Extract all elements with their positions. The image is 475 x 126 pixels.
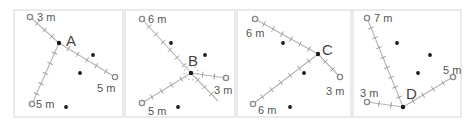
distance-label: 3 m	[214, 84, 232, 96]
anchor-ring-icon	[112, 74, 117, 79]
candidate-point-dot	[288, 105, 292, 109]
candidate-point-dot	[428, 53, 432, 57]
point-label: B	[188, 52, 198, 69]
center-point-dot	[401, 105, 405, 109]
point-label: D	[406, 85, 417, 102]
anchor-ring-icon	[337, 74, 342, 79]
distance-label: 3 m	[360, 87, 378, 99]
anchor-ring-icon	[252, 16, 257, 21]
point-label: C	[322, 41, 333, 58]
distance-label: 5 m	[148, 105, 166, 117]
point-label: A	[66, 32, 76, 49]
candidate-point-dot	[91, 53, 95, 57]
candidate-point-dot	[281, 41, 285, 45]
anchor-ring-icon	[223, 75, 228, 80]
candidate-point-dot	[169, 41, 173, 45]
distance-label: 6 m	[258, 104, 276, 116]
candidate-point-dot	[302, 71, 306, 75]
center-point-dot	[316, 52, 320, 56]
anchor-ring-icon	[364, 15, 369, 20]
candidate-point-dot	[78, 71, 82, 75]
distance-label: 6 m	[148, 13, 166, 25]
distance-label: 5 m	[97, 82, 115, 94]
candidate-point-dot	[64, 105, 68, 109]
anchor-ring-icon	[250, 101, 255, 106]
anchor-ring-icon	[139, 16, 144, 21]
anchor-ring-icon	[139, 100, 144, 105]
distance-label: 5 m	[443, 64, 461, 76]
anchor-ring-icon	[364, 99, 369, 104]
distance-label: 7 m	[374, 12, 392, 24]
distance-diagram: 3 m5 m5 mA6 m3 m5 mB6 m3 m6 mC7 m5 m3 mD	[0, 0, 475, 126]
candidate-point-dot	[203, 53, 207, 57]
center-point-dot	[57, 41, 61, 45]
candidate-point-dot	[176, 105, 180, 109]
anchor-ring-icon	[27, 14, 32, 19]
distance-label: 5 m	[36, 98, 54, 110]
distance-label: 3 m	[37, 11, 55, 23]
center-point-dot	[189, 71, 193, 75]
candidate-point-dot	[416, 71, 420, 75]
anchor-ring-icon	[29, 101, 34, 106]
distance-label: 3 m	[326, 85, 344, 97]
distance-label: 6 m	[246, 27, 264, 39]
candidate-point-dot	[395, 41, 399, 45]
panel-frame-0	[14, 10, 123, 117]
